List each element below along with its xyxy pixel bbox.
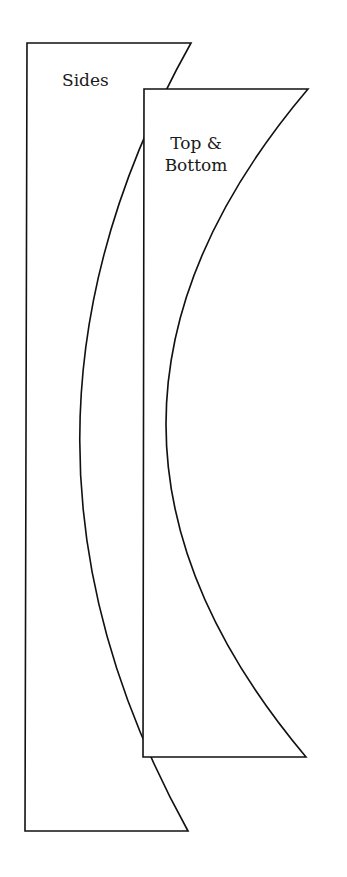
piece-top-bottom: Top & Bottom <box>143 89 308 757</box>
top-bottom-outline <box>143 89 308 757</box>
pattern-diagram: Sides Top & Bottom <box>0 0 347 877</box>
sides-label: Sides <box>62 70 109 90</box>
top-bottom-label-line2: Bottom <box>165 155 228 175</box>
top-bottom-label-line1: Top & <box>170 133 222 153</box>
